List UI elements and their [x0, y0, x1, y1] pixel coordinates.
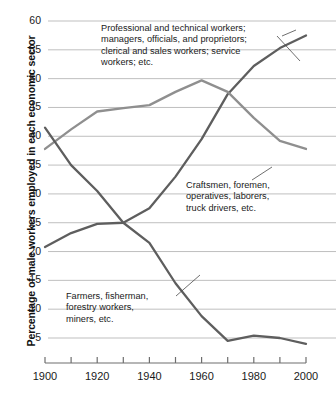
x-tick-1960: 1960: [182, 370, 222, 382]
y-tick-50: 50: [19, 72, 41, 84]
y-tick-15: 15: [19, 273, 41, 285]
y-tick-40: 40: [19, 129, 41, 141]
y-tick-60: 60: [19, 14, 41, 26]
y-tick-55: 55: [19, 43, 41, 55]
x-tick-1940: 1940: [129, 370, 169, 382]
y-tick-5: 5: [19, 331, 41, 343]
y-tick-25: 25: [19, 216, 41, 228]
x-tick-1980: 1980: [234, 370, 274, 382]
y-tick-35: 35: [19, 158, 41, 170]
x-tick-1900: 1900: [25, 370, 65, 382]
y-tick-20: 20: [19, 245, 41, 257]
annotation-farmers-sector: Farmers, fisherman, forestry workers, mi…: [66, 291, 196, 325]
annotation-craftsmen-sector: Craftsmen, foremen, operatives, laborers…: [186, 180, 316, 214]
annotation-leader-lines: [176, 30, 300, 296]
x-tick-1920: 1920: [77, 370, 117, 382]
chart-container: Percentage of male workers employed in e…: [0, 0, 336, 407]
annotation-professional-sector: Professional and technical workers; mana…: [101, 23, 281, 68]
y-tick-45: 45: [19, 100, 41, 112]
x-tick-2000: 2000: [286, 370, 326, 382]
y-tick-30: 30: [19, 187, 41, 199]
x-axis: [45, 357, 306, 363]
y-tick-10: 10: [19, 302, 41, 314]
